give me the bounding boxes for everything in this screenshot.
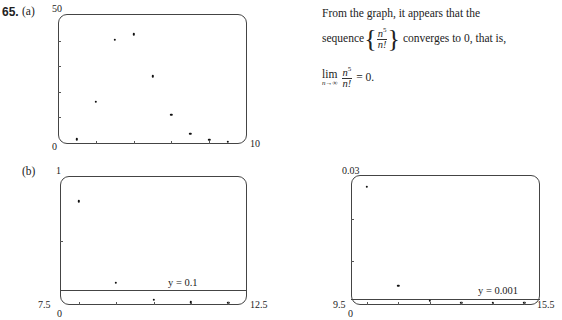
problem-number: 65. <box>2 5 19 19</box>
chart-a-ymax-label: 50 <box>52 3 62 14</box>
chart-b1-origin-label: 0 <box>57 308 62 319</box>
lim-frac-denominator: n! <box>343 79 352 90</box>
chart-b1-xmax-label: 12.5 <box>250 299 268 310</box>
x-tick <box>79 302 80 305</box>
converges-text: converges to 0, that is, <box>403 33 506 45</box>
chart-b2-origin-label: 0 <box>348 308 353 319</box>
part-b-label: (b) <box>22 165 35 177</box>
x-tick <box>96 141 97 144</box>
chart-b1-frame <box>60 176 247 305</box>
limit-expression: lim n→∞ n5 n! = 0. <box>322 66 374 90</box>
chart-b2-xmax-label: 15.5 <box>537 299 555 310</box>
part-a-label: (a) <box>22 5 35 17</box>
limit-fraction: n5 n! <box>342 66 353 90</box>
chart-a-xmax-label: 10 <box>250 138 260 149</box>
chart-a-origin-label: 0 <box>52 141 57 152</box>
limit-result: = 0. <box>356 72 374 84</box>
x-tick <box>461 302 462 305</box>
x-tick <box>209 141 210 144</box>
x-tick <box>367 302 368 305</box>
sequence-fraction: n5 n! <box>377 27 388 51</box>
x-tick <box>228 302 229 305</box>
left-brace: { <box>364 26 376 52</box>
y-tick <box>351 219 354 220</box>
explanation-line2: sequence { n5 n! } converges to 0, that … <box>322 26 506 52</box>
chart-b1-reference-label: y = 0.1 <box>168 277 198 288</box>
right-brace: } <box>387 26 399 52</box>
x-tick <box>154 302 155 305</box>
chart-b1-reference-line <box>60 290 247 291</box>
y-tick <box>58 117 61 118</box>
x-tick <box>134 141 135 144</box>
sequence-word: sequence <box>322 33 364 45</box>
chart-b2-reference-label: y = 0.001 <box>478 285 518 296</box>
x-tick <box>116 302 117 305</box>
x-tick <box>191 302 192 305</box>
y-tick <box>351 261 354 262</box>
chart-a-frame <box>58 14 247 144</box>
x-tick <box>524 302 525 305</box>
x-tick <box>493 302 494 305</box>
y-tick <box>60 241 63 242</box>
x-tick <box>430 302 431 305</box>
chart-b1-xmin-label: 7.5 <box>38 299 51 310</box>
explanation-line1: From the graph, it appears that the <box>322 8 480 20</box>
y-tick <box>58 66 61 67</box>
chart-b1-ymax-label: 1 <box>56 165 61 176</box>
frac-exponent: 5 <box>383 26 387 34</box>
chart-b2-xmin-label: 9.5 <box>333 299 346 310</box>
lim-frac-exponent: 5 <box>348 65 352 73</box>
x-tick <box>171 141 172 144</box>
lim-subscript: n→∞ <box>322 80 338 87</box>
x-tick <box>398 302 399 305</box>
frac-denominator: n! <box>378 40 387 51</box>
chart-b2-reference-line <box>351 299 540 300</box>
y-tick <box>58 41 61 42</box>
y-tick <box>58 92 61 93</box>
